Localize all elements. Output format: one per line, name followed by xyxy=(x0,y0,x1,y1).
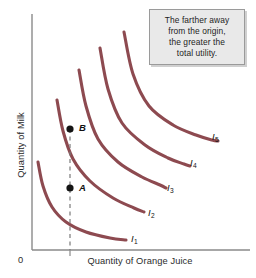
curve-label-i5: I5 xyxy=(212,131,218,142)
y-axis-title: Quantity of Milk xyxy=(16,75,26,215)
callout-box: The farther away from the origin, the gr… xyxy=(149,9,245,65)
curve-label-i3: I3 xyxy=(167,182,173,193)
indifference-curve-i3 xyxy=(79,70,166,188)
curve-label-i2: I2 xyxy=(148,207,154,218)
indifference-curve-i4 xyxy=(100,48,190,166)
origin-label: 0 xyxy=(18,255,23,265)
callout-line-1: The farther away xyxy=(154,15,240,26)
point-marker-a xyxy=(66,184,73,191)
callout-line-4: total utility. xyxy=(154,48,240,59)
point-label-b: B xyxy=(79,122,86,133)
callout-line-3: the greater the xyxy=(154,37,240,48)
point-label-a: A xyxy=(79,182,86,193)
indifference-curve-figure: The farther away from the origin, the gr… xyxy=(0,0,256,278)
point-marker-b xyxy=(66,125,73,132)
curve-label-i1: I1 xyxy=(131,233,137,244)
curve-label-i4: I4 xyxy=(190,157,196,168)
callout-line-2: from the origin, xyxy=(154,26,240,37)
indifference-curve-i2 xyxy=(57,100,144,212)
x-axis-title: Quantity of Orange Juice xyxy=(40,256,240,266)
